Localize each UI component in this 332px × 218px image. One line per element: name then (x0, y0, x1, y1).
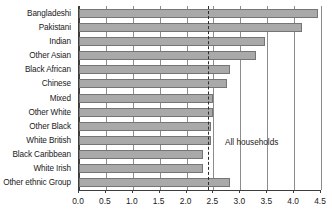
category-label: Black Caribbean (0, 150, 71, 159)
x-axis-tick-label: 0.5 (99, 196, 111, 206)
x-axis-tick (105, 190, 106, 193)
bar (79, 94, 213, 103)
category-label: Other ethnic Group (0, 178, 71, 187)
gridline (240, 6, 241, 190)
x-axis-tick (212, 190, 213, 193)
x-axis-tick (320, 190, 321, 193)
x-axis-tick (78, 190, 79, 193)
x-axis-tick-label: 0.0 (72, 196, 84, 206)
category-label: Indian (0, 37, 71, 46)
bar (79, 23, 302, 32)
all-households-reference-label: All households (225, 138, 278, 147)
gridline (213, 6, 214, 190)
x-axis-tick-label: 1.0 (126, 196, 138, 206)
bar (79, 178, 230, 187)
gridline (321, 6, 322, 190)
bar (79, 9, 318, 18)
bar (79, 51, 256, 60)
gridline (267, 6, 268, 190)
x-axis-tick (239, 190, 240, 193)
category-label: Mixed (0, 94, 71, 103)
x-axis-tick-label: 2.5 (207, 196, 219, 206)
category-label: Pakistani (0, 23, 71, 32)
all-households-reference-line (208, 6, 209, 190)
category-label: Other White (0, 108, 71, 117)
bar-chart: BangladeshiPakistaniIndianOther AsianBla… (0, 0, 332, 218)
bar (79, 79, 227, 88)
x-axis-tick (159, 190, 160, 193)
category-label: White British (0, 136, 71, 145)
gridline (294, 6, 295, 190)
category-axis-labels: BangladeshiPakistaniIndianOther AsianBla… (0, 6, 74, 190)
bar (79, 108, 213, 117)
category-label: Bangladeshi (0, 9, 71, 18)
x-axis-tick-label: 3.5 (260, 196, 272, 206)
category-label: Other Asian (0, 51, 71, 60)
category-label: Other Black (0, 122, 71, 131)
plot-area: All households (78, 6, 321, 190)
category-label: Chinese (0, 79, 71, 88)
bar (79, 150, 203, 159)
x-axis-tick-label: 1.5 (153, 196, 165, 206)
category-label: Black African (0, 65, 71, 74)
x-axis-tick (186, 190, 187, 193)
x-axis-tick-label: 4.5 (314, 196, 326, 206)
x-axis-tick-label: 3.0 (234, 196, 246, 206)
x-axis-tick-label: 2.0 (180, 196, 192, 206)
x-axis-tick (266, 190, 267, 193)
x-axis-tick (293, 190, 294, 193)
bar (79, 164, 203, 173)
bar (79, 65, 230, 74)
x-axis-tick-label: 4.0 (287, 196, 299, 206)
x-axis-line (78, 190, 321, 191)
bar (79, 122, 211, 131)
category-label: White Irish (0, 164, 71, 173)
bar (79, 136, 211, 145)
x-axis-tick (132, 190, 133, 193)
bar (79, 37, 265, 46)
